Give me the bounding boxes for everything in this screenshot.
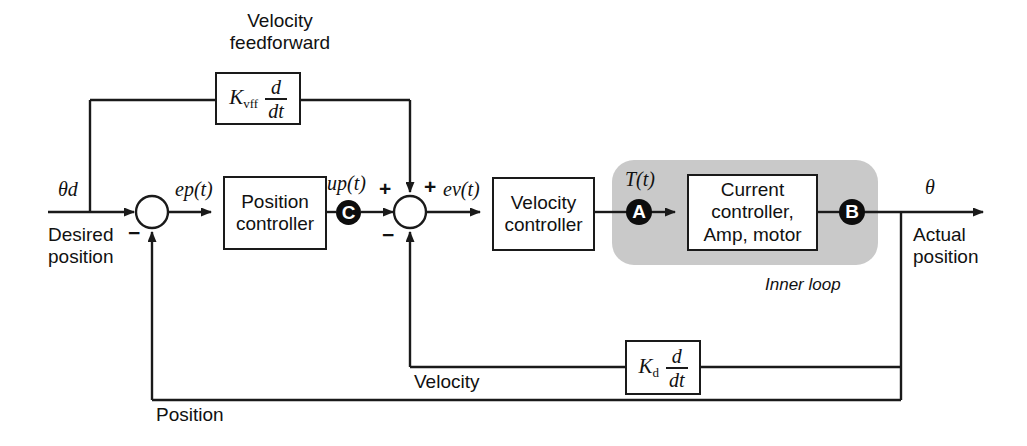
node-b: B [839,199,865,225]
feedforward-title: Velocity feedforward [200,10,360,54]
label-torque: T(t) [625,168,655,191]
label-theta-actual: θ [925,176,935,199]
gain-block-kvff: Kvff d dt [215,72,301,125]
label-position-feedback: Position [156,404,224,426]
actual-position-line1: Actual [913,224,979,246]
plant-line1: Current [703,179,801,201]
label-position-error: ep(t) [175,178,213,201]
block-plant: Current controller, Amp, motor [687,174,818,251]
block-position-controller: Position controller [223,176,327,250]
theta-actual-text: θ [925,176,935,198]
velocity-controller-line2: controller [504,214,582,236]
velocity-controller-line1: Velocity [504,192,582,214]
position-feedback-text: Position [156,404,224,425]
kvff-gain-symbol: Kvff [229,85,258,112]
label-theta-desired: θd [58,178,78,201]
label-velocity-error: ev(t) [443,178,480,201]
position-controller-line1: Position [236,191,314,213]
feedforward-title-line1: Velocity [200,10,360,32]
label-actual-position: Actual position [913,224,979,268]
sum-position-minus-sign: − [128,222,140,243]
inner-loop-text: Inner loop [765,275,841,294]
sum-velocity-minus-bottom: − [382,224,394,245]
desired-position-line2: position [48,246,114,268]
actual-position-line2: position [913,246,979,268]
kd-derivative-fraction: d dt [666,346,688,390]
node-c: C [336,200,361,225]
node-a: A [626,199,652,225]
node-a-letter: A [632,201,646,223]
torque-text: T(t) [625,168,655,190]
node-c-letter: C [342,202,356,224]
plant-line2: controller, [703,201,801,223]
position-controller-line2: controller [236,213,314,235]
kd-gain-symbol: Kd [638,354,659,381]
label-velocity-feedback: Velocity [414,371,479,393]
node-b-letter: B [845,201,859,223]
sum-velocity-plus-right: + [424,176,436,197]
label-desired-position: Desired position [48,224,114,268]
control-system-block-diagram: − + + − Velocity feedforward Kvff d dt θ… [0,0,1027,446]
plant-line3: Amp, motor [703,224,801,246]
label-inner-loop: Inner loop [765,275,841,295]
gain-block-kd: Kd d dt [625,340,701,395]
velocity-error-text: ev(t) [443,178,480,200]
position-control-signal-text: up(t) [327,172,366,194]
velocity-feedback-text: Velocity [414,371,479,392]
block-velocity-controller: Velocity controller [492,177,595,251]
desired-position-line1: Desired [48,224,114,246]
sum-velocity-plus-left: + [379,178,391,199]
kvff-derivative-fraction: d dt [265,77,287,121]
sum-position [136,196,168,228]
label-position-control-signal: up(t) [327,172,366,195]
theta-desired-text: θd [58,178,78,200]
position-error-text: ep(t) [175,178,213,200]
feedforward-title-line2: feedforward [200,32,360,54]
sum-velocity [394,196,426,228]
